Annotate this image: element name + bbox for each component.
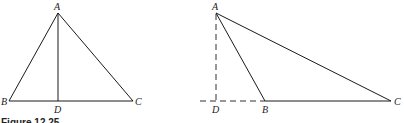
left-label-a: A xyxy=(53,1,61,12)
left-side-ac xyxy=(58,13,133,101)
right-label-a: A xyxy=(211,1,219,12)
left-label-c: C xyxy=(135,96,142,107)
left-label-b: B xyxy=(1,96,7,107)
right-label-d: D xyxy=(211,104,220,115)
figure-caption: Figure 12.25 xyxy=(1,117,60,123)
right-side-ac xyxy=(216,13,391,101)
right-side-ab xyxy=(216,13,265,101)
right-label-c: C xyxy=(394,96,401,107)
left-side-ab xyxy=(9,13,58,101)
left-label-d: D xyxy=(53,104,62,115)
right-diagram: A B C D xyxy=(200,1,401,115)
figure-canvas: A B C D A B C D Figure 12.25 xyxy=(0,0,404,123)
left-diagram: A B C D xyxy=(1,1,142,115)
right-label-b: B xyxy=(262,104,268,115)
